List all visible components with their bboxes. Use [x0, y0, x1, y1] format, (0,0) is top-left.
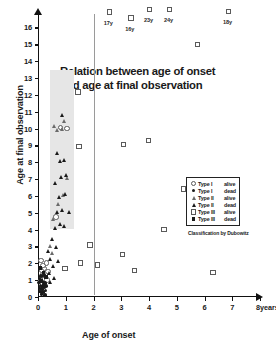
x-axis-tick-label: 7 [223, 303, 241, 312]
y-axis-tick [35, 162, 39, 163]
data-point [43, 293, 47, 297]
data-point [132, 268, 137, 273]
legend-status-label: alive [224, 209, 235, 215]
y-axis-tick-label: 9 [16, 141, 32, 150]
data-point-annotation: 17y [104, 20, 113, 26]
data-point [57, 195, 61, 199]
x-axis-tick [232, 297, 233, 301]
y-axis-tick [35, 112, 39, 113]
y-axis-tick-label: 11 [16, 108, 32, 117]
x-axis-tick-label: 0 [29, 303, 47, 312]
data-point [161, 227, 166, 232]
data-point [54, 245, 58, 249]
x-axis-unit-label: 8years [256, 303, 276, 312]
legend-row: Type IIIdead [189, 215, 236, 222]
x-axis-tick-label: 6 [196, 303, 214, 312]
data-point [76, 144, 81, 149]
data-point [50, 251, 54, 255]
x-axis-tick [66, 297, 67, 301]
legend-marker-icon [191, 181, 196, 186]
y-axis-tick [35, 78, 39, 79]
y-axis-tick-label: 1 [16, 276, 32, 285]
x-axis-tick-label: 1 [57, 303, 75, 312]
y-axis-tick [35, 145, 39, 146]
data-point [120, 252, 125, 257]
y-axis-tick-label: 2 [16, 259, 32, 268]
legend-status-label: alive [224, 181, 235, 187]
legend-marker-icon [192, 196, 196, 200]
legend-row: Type IIdead [189, 201, 236, 208]
legend-symbol-triangle-fill [189, 203, 198, 207]
data-point [51, 264, 55, 268]
data-point [48, 244, 52, 248]
y-axis-tick [35, 230, 39, 231]
x-axis-tick [149, 297, 150, 301]
legend-marker-icon [192, 189, 196, 193]
y-axis-tick [35, 263, 39, 264]
data-point [38, 258, 43, 263]
x-axis-tick-label: 4 [140, 303, 158, 312]
data-point [41, 285, 45, 289]
x-axis-tick [260, 297, 261, 301]
legend-status-label: alive [224, 195, 235, 201]
y-axis-tick-label: 4 [16, 226, 32, 235]
legend-type-label: Type III [198, 216, 224, 222]
data-point [62, 224, 66, 228]
legend-row: Type Idead [189, 187, 236, 194]
legend-symbol-circle-open [189, 181, 198, 186]
data-point [44, 289, 48, 293]
legend-type-label: Type I [198, 181, 224, 187]
x-axis-tick [38, 297, 39, 301]
x-axis-tick [94, 297, 95, 301]
separator-line [94, 14, 95, 295]
data-point [53, 226, 57, 230]
y-axis-tick [35, 27, 39, 28]
legend-symbol-triangle-open [189, 196, 198, 200]
legend-status-label: dead [224, 188, 236, 194]
shaded-band [50, 70, 74, 228]
data-point [62, 266, 67, 271]
legend-row: Type IIIalive [189, 208, 236, 215]
x-axis-title: Age of onset [82, 330, 135, 340]
data-point [59, 175, 63, 179]
legend-symbol-square-fill [189, 217, 198, 221]
data-point [195, 42, 200, 47]
y-axis-tick [35, 95, 39, 96]
y-axis-tick [35, 196, 39, 197]
data-point [51, 217, 55, 221]
data-point [48, 257, 52, 261]
y-axis-tick-label: 10 [16, 125, 32, 134]
legend-marker-icon [191, 209, 196, 214]
x-axis-tick [205, 297, 206, 301]
y-axis-tick [35, 129, 39, 130]
x-axis-tick [121, 297, 122, 301]
y-axis-tick [35, 280, 39, 281]
data-point [60, 208, 64, 212]
data-point [67, 210, 71, 214]
y-axis-tick-label: 15 [16, 40, 32, 49]
data-point [48, 280, 52, 284]
data-point [146, 138, 151, 143]
legend-status-label: dead [224, 202, 236, 208]
data-point [87, 242, 92, 247]
y-axis-tick-label: 14 [16, 57, 32, 66]
data-point [55, 128, 59, 132]
data-point [121, 142, 126, 147]
data-point [52, 124, 56, 128]
y-axis-tick-label: 8 [16, 158, 32, 167]
y-axis-tick [35, 246, 39, 247]
data-point [53, 181, 57, 185]
y-axis-tick-label: 16 [16, 23, 32, 32]
data-point [46, 249, 50, 253]
x-axis-tick-label: 5 [168, 303, 186, 312]
x-axis-tick-label: 3 [112, 303, 130, 312]
legend-row: Type IIalive [189, 194, 236, 201]
x-axis-tick [177, 297, 178, 301]
data-point [75, 89, 80, 94]
data-point [44, 275, 48, 279]
y-axis-tick-label: 5 [16, 209, 32, 218]
legend-type-label: Type II [198, 202, 224, 208]
legend-marker-icon [192, 203, 196, 207]
data-point-annotation: 24y [164, 17, 173, 23]
data-point [210, 270, 215, 275]
